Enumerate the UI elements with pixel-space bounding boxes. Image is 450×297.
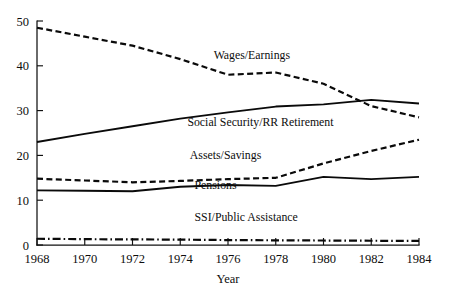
series-inline-label: Wages/Earnings (214, 48, 291, 62)
series-line (37, 239, 419, 241)
line-chart-canvas: 01020304050 1968197019721974197619781980… (0, 0, 450, 297)
y-tick-label: 50 (17, 15, 30, 29)
x-tick-label: 1984 (407, 252, 433, 266)
series-inline-label: Social Security/RR Retirement (187, 115, 334, 129)
y-tick-label-group: 01020304050 (17, 15, 30, 253)
y-tick-label: 10 (17, 194, 30, 208)
x-tick-label: 1970 (72, 252, 97, 266)
x-tick-label: 1978 (263, 252, 288, 266)
x-tick-label: 1980 (311, 252, 336, 266)
series-inline-label: Pensions (195, 178, 237, 192)
x-axis-title: Year (216, 272, 240, 286)
y-axis-ticks (37, 21, 43, 245)
series-inline-label: SSI/Public Assistance (195, 210, 298, 224)
chart-figure: 01020304050 1968197019721974197619781980… (0, 0, 450, 297)
y-tick-label: 40 (17, 59, 30, 73)
x-tick-label: 1972 (120, 252, 145, 266)
y-tick-label: 20 (17, 149, 30, 163)
y-tick-label: 30 (17, 104, 30, 118)
x-tick-label: 1982 (359, 252, 384, 266)
x-tick-label: 1976 (216, 252, 241, 266)
series-inline-label: Assets/Savings (190, 148, 262, 162)
x-tick-label: 1968 (25, 252, 50, 266)
x-tick-label: 1974 (168, 252, 194, 266)
x-tick-label-group: 196819701972197419761978198019821984 (25, 252, 433, 266)
y-tick-label: 0 (23, 239, 29, 253)
series-line (37, 28, 419, 118)
